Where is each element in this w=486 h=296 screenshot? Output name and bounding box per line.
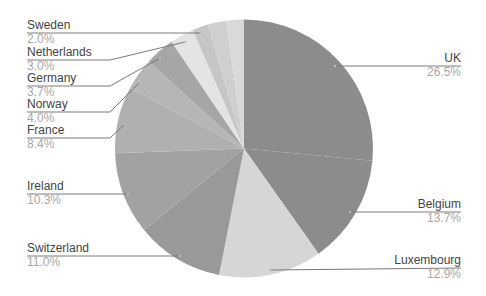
leader-dot bbox=[139, 81, 141, 83]
label-name-norway: Norway bbox=[27, 97, 68, 111]
leader-dot bbox=[334, 65, 336, 67]
label-name-germany: Germany bbox=[27, 71, 76, 85]
leader-dot bbox=[349, 211, 351, 213]
label-name-ireland: Ireland bbox=[27, 179, 64, 193]
label-name-sweden: Sweden bbox=[27, 18, 70, 32]
label-percent-france: 8.4% bbox=[27, 137, 55, 151]
label-name-luxembourg: Luxembourg bbox=[394, 253, 461, 267]
label-name-switzerland: Switzerland bbox=[27, 241, 89, 255]
label-percent-norway: 4.0% bbox=[27, 111, 55, 125]
pie-chart: UK26.5%Belgium13.7%Luxembourg12.9%Switze… bbox=[0, 0, 486, 296]
label-name-uk: UK bbox=[444, 51, 461, 65]
leader-dot bbox=[179, 255, 181, 257]
label-name-france: France bbox=[27, 123, 65, 137]
leader-dot bbox=[127, 193, 129, 195]
label-percent-ireland: 10.3% bbox=[27, 193, 61, 207]
leader-dot bbox=[269, 269, 271, 271]
pie-slices bbox=[115, 20, 373, 278]
label-percent-luxembourg: 12.9% bbox=[427, 267, 461, 281]
label-percent-germany: 3.7% bbox=[27, 85, 55, 99]
label-percent-netherlands: 3.0% bbox=[27, 59, 55, 73]
leader-dot bbox=[159, 57, 161, 59]
label-name-belgium: Belgium bbox=[418, 197, 461, 211]
label-percent-sweden: 2.0% bbox=[27, 32, 55, 46]
leader-dot bbox=[200, 32, 202, 34]
slice-uk bbox=[244, 20, 373, 161]
label-percent-belgium: 13.7% bbox=[427, 211, 461, 225]
label-percent-uk: 26.5% bbox=[427, 65, 461, 79]
leader-dot bbox=[124, 123, 126, 125]
label-percent-switzerland: 11.0% bbox=[27, 255, 60, 269]
leader-dot bbox=[184, 41, 186, 43]
label-name-netherlands: Netherlands bbox=[27, 45, 92, 59]
